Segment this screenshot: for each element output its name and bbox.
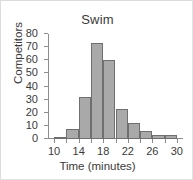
y-tick-label: 60	[26, 59, 38, 60]
y-axis-label: Competitors	[12, 3, 24, 103]
y-tick-label: 0	[32, 138, 38, 139]
y-tick-label: 70	[26, 46, 38, 47]
bar	[152, 135, 164, 139]
x-tick-label: 22	[122, 145, 134, 157]
bar	[140, 131, 152, 139]
x-tick	[91, 139, 92, 143]
x-tick	[165, 139, 166, 143]
x-tick	[54, 139, 55, 143]
y-tick-label: 30	[26, 99, 38, 100]
chart-frame: Swim Competitors 01020304050607080 10141…	[0, 0, 193, 180]
x-axis-label: Time (minutes)	[1, 160, 193, 172]
y-tick-label: 40	[26, 86, 38, 87]
x-tick	[128, 139, 129, 143]
bar	[54, 137, 66, 139]
x-tick-label: 18	[97, 145, 109, 157]
y-tick-label: 80	[26, 33, 38, 34]
y-tick-label: 50	[26, 72, 38, 73]
plot-area: 01020304050607080 101418222630	[48, 34, 183, 139]
bar	[128, 123, 140, 139]
x-tick-label: 14	[73, 145, 85, 157]
bar	[79, 97, 91, 139]
x-tick	[103, 139, 104, 143]
bar	[103, 60, 115, 139]
x-tick-label: 26	[146, 145, 158, 157]
y-tick: 0	[44, 138, 48, 139]
bar	[66, 129, 78, 140]
x-tick	[116, 139, 117, 143]
y-tick: 50	[44, 72, 48, 73]
y-tick: 80	[44, 33, 48, 34]
y-axis-line	[48, 34, 49, 139]
y-tick: 40	[44, 86, 48, 87]
y-tick: 10	[44, 125, 48, 126]
x-tick	[79, 139, 80, 143]
bar	[165, 135, 177, 139]
x-tick-label: 30	[171, 145, 183, 157]
x-tick	[152, 139, 153, 143]
x-tick-label: 10	[48, 145, 60, 157]
y-tick: 30	[44, 99, 48, 100]
y-tick: 60	[44, 59, 48, 60]
x-tick	[140, 139, 141, 143]
bar	[91, 43, 103, 139]
x-tick	[66, 139, 67, 143]
y-tick: 70	[44, 46, 48, 47]
y-tick-label: 10	[26, 125, 38, 126]
bar	[116, 109, 128, 139]
y-tick: 20	[44, 112, 48, 113]
y-tick-label: 20	[26, 112, 38, 113]
chart-title: Swim	[1, 12, 193, 27]
x-tick	[177, 139, 178, 143]
